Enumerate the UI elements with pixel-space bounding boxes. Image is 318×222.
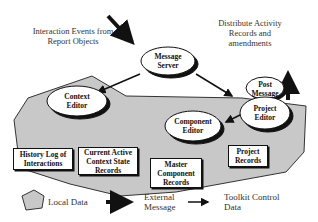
current-active-record: Current Active Context State Records [78,147,138,175]
interaction-events-label: Interaction Events from Report Objects [28,26,118,46]
history-log-record: History Log of Interactions [13,148,73,170]
master-component-record: Master Component Records [150,158,202,188]
distribute-label: Distribute Activity Records and amendmen… [210,18,290,48]
project-records-record: Project Records [228,145,268,167]
project-editor-node: Project Editor [244,103,286,123]
component-editor-node: Component Editor [168,116,218,136]
context-editor-node: Context Editor [54,91,100,111]
legend-local-data: Local Data [48,197,88,207]
message-server-node: Message Server [146,50,190,72]
legend-toolkit-control: Toolkit Control Data [224,192,284,212]
legend-external-message: External Message [144,192,188,212]
post-message-node: Post Message [248,79,282,99]
